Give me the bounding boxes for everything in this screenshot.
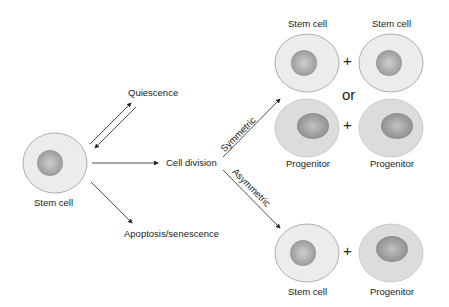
symmetric-stem-cell-1-label: Stem cell	[288, 18, 327, 29]
arrow-to-quiescence	[90, 103, 131, 144]
diagram-canvas	[0, 0, 449, 307]
source-stem-cell	[23, 133, 87, 193]
symmetric-stem-cell-2-label: Stem cell	[372, 18, 411, 29]
asymmetric-progenitor	[359, 224, 423, 282]
apoptosis-label: Apoptosis/senescence	[124, 228, 219, 239]
arrow-from-quiescence	[95, 107, 136, 148]
asymmetric-stem-cell-label: Stem cell	[288, 286, 327, 297]
quiescence-label: Quiescence	[128, 87, 178, 98]
symmetric-progenitor-2-label: Progenitor	[370, 158, 414, 169]
cell-division-label: Cell division	[166, 157, 217, 168]
symmetric-stem-cell-1	[275, 34, 339, 92]
symmetric-progenitor-2	[359, 99, 423, 157]
asymmetric-stem-cell	[275, 224, 339, 282]
arrow-to-apoptosis	[91, 182, 132, 223]
symmetric-stem-cell-2	[359, 34, 423, 92]
or-separator: or	[342, 86, 355, 103]
plus-sign-1: +	[343, 52, 352, 69]
plus-sign-3: +	[343, 242, 352, 259]
source-stem-cell-label: Stem cell	[34, 197, 73, 208]
asymmetric-progenitor-label: Progenitor	[370, 286, 414, 297]
symmetric-progenitor-1-label: Progenitor	[286, 158, 330, 169]
symmetric-progenitor-1	[275, 99, 339, 157]
plus-sign-2: +	[343, 116, 352, 133]
